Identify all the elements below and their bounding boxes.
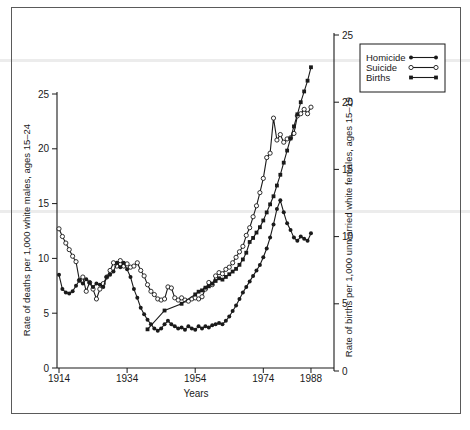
y-axis-right-title: Rate of births per 1,000 unmarried white… xyxy=(343,97,354,357)
legend-symbol-marker xyxy=(409,65,413,69)
homicide-data-point xyxy=(67,291,71,295)
homicide-data-point xyxy=(214,322,218,326)
homicide-data-point xyxy=(152,327,156,331)
homicide-data-point xyxy=(84,277,88,281)
homicide-data-point xyxy=(261,255,265,259)
y-right-tick-label: 25 xyxy=(342,30,354,41)
legend-symbol-marker xyxy=(434,76,438,80)
suicide-series-line xyxy=(59,107,311,301)
homicide-data-point xyxy=(169,322,173,326)
suicide-data-point xyxy=(282,140,286,144)
births-data-point xyxy=(234,267,238,271)
homicide-data-point xyxy=(248,279,252,283)
legend-symbol-marker xyxy=(409,76,413,80)
births-data-point xyxy=(146,327,150,331)
suicide-data-point xyxy=(302,107,306,111)
births-data-point xyxy=(241,258,245,262)
homicide-data-point xyxy=(122,261,126,265)
homicide-data-point xyxy=(292,236,296,240)
homicide-data-point xyxy=(180,325,184,329)
suicide-data-point xyxy=(271,116,275,120)
series-plot-area xyxy=(57,65,313,332)
suicide-data-point xyxy=(237,250,241,254)
suicide-data-point xyxy=(135,261,139,265)
homicide-data-point xyxy=(105,275,109,279)
suicide-data-point xyxy=(149,289,153,293)
births-data-point xyxy=(197,290,201,294)
suicide-data-point xyxy=(139,268,143,272)
suicide-data-point xyxy=(98,287,102,291)
homicide-series-line xyxy=(59,200,311,330)
homicide-data-point xyxy=(309,231,313,235)
homicide-data-point xyxy=(302,237,306,241)
homicide-data-point xyxy=(203,324,207,328)
homicide-data-point xyxy=(125,267,129,271)
births-data-point xyxy=(238,263,242,267)
births-data-point xyxy=(295,112,299,116)
homicide-data-point xyxy=(173,324,177,328)
homicide-data-point xyxy=(108,273,112,277)
suicide-data-point xyxy=(231,261,235,265)
homicide-data-point xyxy=(275,207,279,211)
y-right-tick-label: 0 xyxy=(342,366,348,377)
suicide-data-point xyxy=(265,155,269,159)
homicide-data-point xyxy=(193,328,197,332)
homicide-data-point xyxy=(285,221,289,225)
x-axis-title: Years xyxy=(183,388,208,399)
births-data-point xyxy=(275,184,279,188)
y-left-tick-label: 10 xyxy=(38,253,50,264)
suicide-data-point xyxy=(248,226,252,230)
homicide-data-point xyxy=(186,324,190,328)
homicide-data-point xyxy=(265,247,269,251)
homicide-data-point xyxy=(98,283,102,287)
homicide-data-point xyxy=(278,198,282,202)
suicide-data-point xyxy=(67,248,71,252)
births-data-point xyxy=(278,173,282,177)
births-data-point xyxy=(193,292,197,296)
chart-canvas: 0510152025051015202519141934195419741988… xyxy=(0,0,470,430)
births-data-point xyxy=(272,194,276,198)
births-data-point xyxy=(265,211,269,215)
suicide-data-point xyxy=(57,227,61,231)
homicide-data-point xyxy=(241,290,245,294)
births-data-point xyxy=(214,279,218,283)
homicide-data-point xyxy=(146,318,150,322)
legend-symbol-marker xyxy=(434,56,438,60)
homicide-data-point xyxy=(101,285,105,289)
suicide-data-point xyxy=(299,112,303,116)
x-axis-tick-label: 1974 xyxy=(252,373,275,384)
births-data-point xyxy=(289,137,293,141)
homicide-data-point xyxy=(244,285,248,289)
homicide-data-point xyxy=(94,282,98,286)
homicide-data-point xyxy=(166,319,170,323)
x-axis-tick-label: 1988 xyxy=(300,373,323,384)
homicide-data-point xyxy=(163,322,167,326)
suicide-data-point xyxy=(220,272,224,276)
homicide-data-point xyxy=(156,329,160,333)
suicide-data-point xyxy=(152,292,156,296)
suicide-data-point xyxy=(162,297,166,301)
homicide-data-point xyxy=(251,274,255,278)
suicide-data-point xyxy=(214,274,218,278)
births-data-point xyxy=(292,124,296,128)
x-axis-tick-label: 1934 xyxy=(116,373,139,384)
y-left-tick-label: 0 xyxy=(43,363,49,374)
suicide-data-point xyxy=(74,260,78,264)
births-data-point xyxy=(163,309,167,313)
homicide-data-point xyxy=(200,327,204,331)
births-data-point xyxy=(299,100,303,104)
homicide-data-point xyxy=(210,323,214,327)
homicide-data-point xyxy=(217,321,221,325)
suicide-data-point xyxy=(84,289,88,293)
births-data-point xyxy=(180,302,184,306)
suicide-data-point xyxy=(145,283,149,287)
homicide-data-point xyxy=(88,281,92,285)
homicide-data-point xyxy=(71,289,75,293)
homicide-data-point xyxy=(306,239,310,243)
homicide-data-point xyxy=(77,278,81,282)
chart: 0510152025051015202519141934195419741988… xyxy=(0,0,470,430)
births-data-point xyxy=(251,236,255,240)
suicide-data-point xyxy=(64,241,68,245)
suicide-data-point xyxy=(94,297,98,301)
homicide-data-point xyxy=(224,319,228,323)
